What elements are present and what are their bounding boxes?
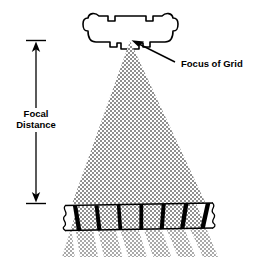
focal-distance-label-line2: Distance <box>16 119 56 130</box>
figure-canvas: Focus of Grid Focal Distance <box>0 0 270 260</box>
focal-distance-label-line1: Focal <box>24 108 49 119</box>
focus-of-grid-label: Focus of Grid <box>181 58 243 69</box>
transmitted-beam-bands <box>55 229 225 259</box>
focused-grid-diagram: Focus of Grid Focal Distance <box>0 0 270 260</box>
